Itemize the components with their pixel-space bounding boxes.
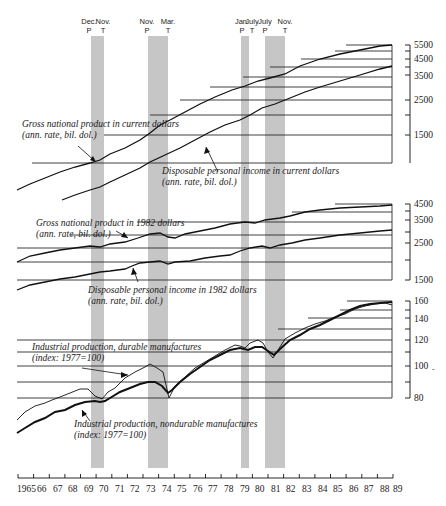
- tick-140: 140: [414, 314, 429, 324]
- x-axis: [18, 474, 393, 478]
- recession-label-trough-3: July: [245, 17, 259, 26]
- tick-80: 80: [414, 393, 424, 403]
- year-75: 75: [177, 484, 187, 494]
- recession-labels: Dec. P Nov. T Nov. P Mar. T Jan. P July …: [81, 17, 292, 35]
- tick-160: 160: [414, 296, 429, 306]
- label-dpi-1982: Disposable personal income in 1982 dolla…: [87, 285, 257, 295]
- tick-5500: 5500: [414, 40, 433, 50]
- y-axis-panel3: [405, 301, 410, 398]
- year-73: 73: [146, 484, 156, 494]
- year-80: 80: [255, 484, 265, 494]
- year-84: 84: [318, 484, 328, 494]
- tick-4500: 4500: [414, 54, 433, 64]
- recession-code-peak-1: P: [86, 26, 91, 35]
- gridlines-panel1: [32, 45, 392, 163]
- year-1965: 1965: [17, 484, 36, 494]
- label-dpi-1982-units: (ann. rate, bil. dol.): [88, 296, 163, 307]
- year-78: 78: [224, 484, 234, 494]
- recession-label-trough-4: Nov.: [278, 17, 293, 26]
- label-dpi-current-units: (ann. rate, bil. dol.): [162, 177, 237, 188]
- y-axis-panel1: [405, 45, 410, 163]
- recession-label-peak-1: Dec.: [81, 17, 96, 26]
- year-74: 74: [162, 484, 172, 494]
- recession-bands: [91, 36, 285, 468]
- recession-label-trough-2: Mar.: [161, 17, 176, 26]
- x-axis-labels: 1965 66 67 68 69 70 71 72 73 74 75 76 77…: [17, 484, 403, 494]
- series-ip-nondurable: [17, 302, 392, 433]
- year-82: 82: [286, 484, 296, 494]
- tick-120: 120: [414, 335, 429, 345]
- arrowhead-dpi-1982: [131, 268, 137, 275]
- year-68: 68: [68, 484, 78, 494]
- year-86: 86: [349, 484, 359, 494]
- recession-label-peak-2: Nov.: [140, 17, 155, 26]
- recession-code-peak-3: P: [239, 26, 244, 35]
- year-83: 83: [302, 484, 312, 494]
- label-ip-durable: Industrial production, durable manufactu…: [31, 342, 202, 352]
- stray-mark: -: [432, 365, 435, 374]
- recession-band-1973-75: [148, 36, 168, 468]
- tick-1500: 1500: [414, 130, 433, 140]
- recession-code-trough-2: T: [166, 26, 171, 35]
- tick-2500-real: 2500: [414, 238, 433, 248]
- label-gnp-1982: Gross national product in 1982 dollars: [36, 218, 185, 228]
- label-ip-nondurable: Industrial production, nondurable manufa…: [73, 419, 258, 429]
- economic-indicators-chart: Dec. P Nov. T Nov. P Mar. T Jan. P July …: [0, 0, 446, 506]
- tick-100: 100: [414, 361, 429, 371]
- year-88: 88: [380, 484, 390, 494]
- label-ip-durable-units: (index: 1977=100): [32, 353, 104, 364]
- year-71: 71: [115, 484, 125, 494]
- year-67: 67: [53, 484, 63, 494]
- recession-code-peak-4: P: [262, 26, 267, 35]
- recession-band-1969-70: [91, 36, 104, 468]
- tick-3500: 3500: [414, 71, 433, 81]
- panel-1982-dollars: [17, 204, 392, 290]
- year-89: 89: [393, 484, 403, 494]
- series-dpi-1982: [17, 230, 392, 290]
- year-76: 76: [193, 484, 203, 494]
- y-axis-panel2: [405, 204, 410, 280]
- tick-1500-real: 1500: [414, 275, 433, 285]
- gridlines-panel2: [17, 204, 392, 280]
- year-81: 81: [271, 484, 281, 494]
- tick-2500: 2500: [414, 95, 433, 105]
- panel-industrial-production: [17, 301, 392, 433]
- year-69: 69: [84, 484, 94, 494]
- recession-band-1980: [241, 36, 249, 468]
- label-gnp-current-units: (ann. rate, bil. dol.): [22, 130, 97, 141]
- year-72: 72: [130, 484, 140, 494]
- year-77: 77: [208, 484, 218, 494]
- label-gnp-1982-units: (ann. rate, bil. dol.): [36, 229, 111, 240]
- label-dpi-current: Disposable personal income in current do…: [161, 166, 340, 176]
- year-87: 87: [364, 484, 374, 494]
- recession-code-trough-4: T: [283, 26, 288, 35]
- tick-3500-real: 3500: [414, 215, 433, 225]
- recession-label-trough-1: Nov.: [96, 17, 111, 26]
- year-70: 70: [99, 484, 109, 494]
- recession-code-trough-1: T: [101, 26, 106, 35]
- label-gnp-current: Gross national product in current dollar…: [22, 119, 179, 129]
- tick-4500-real: 4500: [414, 199, 433, 209]
- year-79: 79: [240, 484, 250, 494]
- year-85: 85: [333, 484, 343, 494]
- year-66: 66: [37, 484, 47, 494]
- label-ip-nondurable-units: (index: 1977=100): [74, 430, 146, 441]
- recession-code-peak-2: P: [144, 26, 149, 35]
- recession-code-trough-3: T: [250, 26, 255, 35]
- recession-label-peak-4: July: [258, 17, 272, 26]
